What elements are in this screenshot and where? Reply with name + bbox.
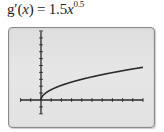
graph-plot bbox=[0, 0, 164, 132]
function-curve bbox=[41, 67, 143, 100]
axes bbox=[21, 31, 143, 114]
